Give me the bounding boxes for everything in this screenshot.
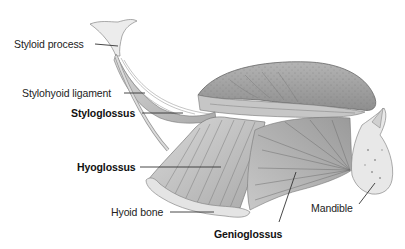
- label-styloid-process: Styloid process: [14, 38, 84, 50]
- label-genioglossus: Genioglossus: [214, 228, 282, 240]
- label-hyoid-bone: Hyoid bone: [111, 206, 163, 218]
- genioglossus-muscle: [248, 117, 352, 210]
- mandible: [351, 108, 392, 194]
- label-hyoglossus: Hyoglossus: [77, 161, 136, 173]
- tongue: [198, 62, 376, 118]
- label-stylohyoid-ligament: Stylohyoid ligament: [22, 87, 111, 99]
- styloid-process: [90, 19, 137, 56]
- label-mandible: Mandible: [311, 202, 353, 214]
- tongue-muscle-diagram: Styloid process Stylohyoid ligament Styl…: [0, 0, 405, 249]
- label-styloglossus: Styloglossus: [71, 107, 135, 119]
